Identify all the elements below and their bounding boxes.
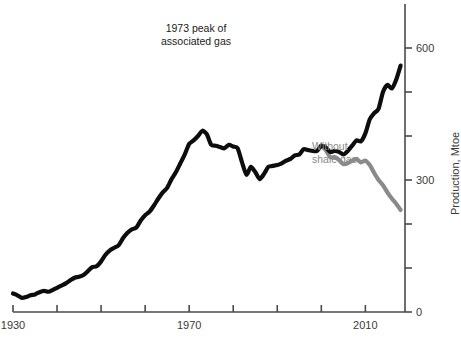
- x-axis-ticks: [13, 305, 365, 312]
- y-axis-title: Production, Mtoe: [449, 132, 461, 215]
- without-shale-gas-annotation: Without shale gas: [312, 140, 357, 166]
- x-axis-tick-label: 2010: [353, 320, 377, 331]
- y-axis-tick-label: 300: [416, 175, 434, 186]
- y-axis-ticks: [405, 48, 412, 312]
- peak-annotation: 1973 peak of associated gas: [161, 22, 231, 48]
- x-axis-tick-label: 1970: [177, 320, 201, 331]
- y-axis-tick-label: 0: [416, 307, 422, 318]
- x-axis-tick-label: 1930: [1, 320, 25, 331]
- y-axis-tick-label: 600: [416, 43, 434, 54]
- series-line-production: [13, 66, 401, 298]
